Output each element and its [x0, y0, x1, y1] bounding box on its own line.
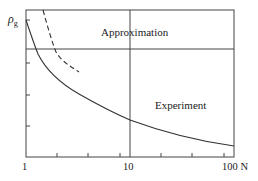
experiment-label: Experiment	[155, 99, 206, 111]
x-tick-label-100: 100 N	[222, 161, 248, 172]
x-tick-label-1: 1	[22, 161, 27, 172]
x-tick-label-10: 10	[123, 161, 134, 172]
approximation-curve	[43, 10, 79, 72]
y-ticks	[26, 20, 30, 126]
y-axis-label: ρg	[8, 12, 18, 28]
approximation-label: Approximation	[101, 26, 168, 38]
x-ticks	[57, 153, 224, 157]
